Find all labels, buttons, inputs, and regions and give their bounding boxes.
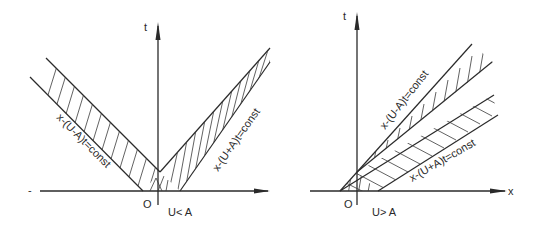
condition-label: U< A <box>168 206 193 218</box>
hatch-lower-band <box>340 90 504 196</box>
x-axis-minus-label: - <box>28 184 32 196</box>
t-axis-label: t <box>343 10 346 22</box>
hatch-right-band <box>168 40 277 195</box>
x-axis-arrow-icon <box>490 189 507 194</box>
condition-label: U> A <box>372 206 397 218</box>
hatch-center <box>150 176 168 191</box>
band-lower-equation: x-(U+A)t=const <box>407 136 477 183</box>
left-panel: t - O U< A x-(U-A)t=const x-(U+A)t=const <box>28 21 277 218</box>
x-axis-label: x <box>508 185 514 197</box>
origin-label: O <box>143 198 152 210</box>
origin-label: O <box>344 198 353 210</box>
characteristics-diagram: t - O U< A x-(U-A)t=const x-(U+A)t=const <box>0 0 537 229</box>
right-panel: t x O U> A x-(U-A)t=const x-(U+A)t=const <box>310 10 514 218</box>
band-lower-lower-line <box>378 115 498 191</box>
t-axis-arrow-icon <box>156 22 161 40</box>
t-axis-arrow-icon <box>355 12 360 30</box>
band-right-equation: x-(U+A)t=const <box>210 106 262 173</box>
t-axis-label: t <box>144 21 147 33</box>
x-axis-arrow-icon <box>254 189 270 194</box>
band-right-lower-line <box>180 62 270 191</box>
